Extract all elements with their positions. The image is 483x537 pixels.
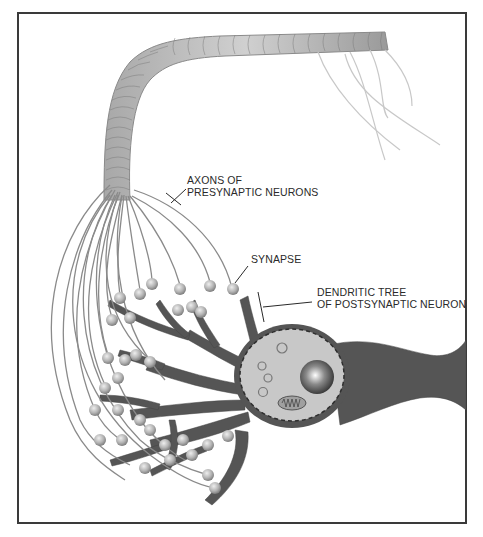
neuron-illustration [0,0,483,537]
label-axons-presynaptic: AXONS OF PRESYNAPTIC NEURONS [187,174,318,198]
label-dendritic-tree: DENDRITIC TREE OF POSTSYNAPTIC NEURON [317,286,466,310]
cell-body [234,324,350,428]
mitochondrion [278,396,306,410]
label-dendritic-line1: DENDRITIC TREE [317,286,466,298]
nucleolus [300,360,334,394]
label-axons-line2: PRESYNAPTIC NEURONS [187,186,318,198]
label-dendritic-line2: OF POSTSYNAPTIC NEURON [317,298,466,310]
label-synapse-line1: SYNAPSE [251,253,301,265]
label-axons-line1: AXONS OF [187,174,318,186]
label-synapse: SYNAPSE [251,253,301,265]
